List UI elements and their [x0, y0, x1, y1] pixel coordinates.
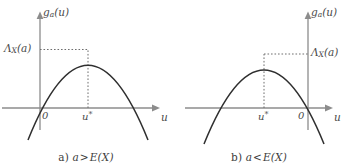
caption-b: b) a<E(X): [173, 151, 345, 163]
figure-container: ga(u) u 0 u* ΛX(a) a) a>E(X): [0, 0, 345, 167]
peak-value-a: ΛX(a): [4, 43, 31, 55]
x-axis-label-b: u: [334, 112, 341, 123]
origin-tick-b: 0: [298, 111, 304, 121]
x-axis-label-a: u: [161, 112, 168, 123]
peak-tick-a: u*: [82, 111, 92, 122]
plot-a: [0, 0, 172, 167]
origin-tick-a: 0: [42, 111, 48, 121]
peak-tick-b: u*: [258, 111, 268, 122]
y-axis-b: [305, 12, 312, 131]
plot-b: [173, 0, 345, 167]
y-axis-label-a: ga(u): [43, 7, 69, 19]
panel-b: ga(u) u 0 u* ΛX(a) b) a<E(X): [173, 0, 345, 167]
panel-a: ga(u) u 0 u* ΛX(a) a) a>E(X): [0, 0, 172, 167]
caption-a: a) a>E(X): [0, 151, 172, 163]
peak-value-b: ΛX(a): [311, 47, 338, 59]
y-axis-label-b: ga(u): [311, 7, 337, 19]
x-axis-a: [2, 104, 160, 111]
